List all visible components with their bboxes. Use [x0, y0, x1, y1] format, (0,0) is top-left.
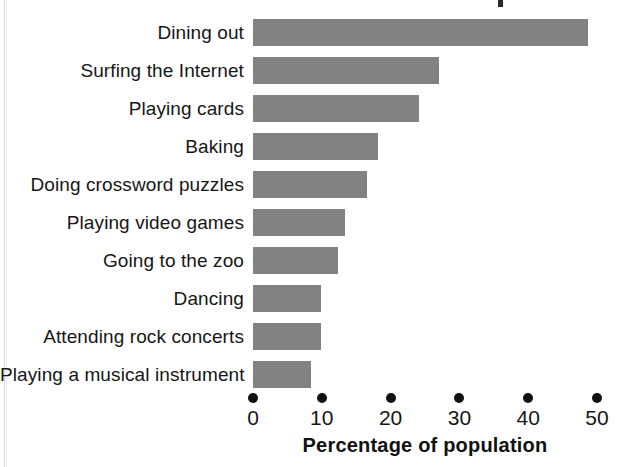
- x-tick-label: 30: [429, 406, 489, 430]
- category-label: Baking: [0, 133, 244, 160]
- x-tick-dot: [317, 393, 327, 403]
- bar-row: Playing video games: [0, 209, 627, 236]
- category-label: Attending rock concerts: [0, 323, 244, 350]
- category-label: Going to the zoo: [0, 247, 244, 274]
- bar-chart-figure: Dining outSurfing the InternetPlaying ca…: [0, 0, 627, 467]
- x-tick-dot: [454, 393, 464, 403]
- category-label: Surfing the Internet: [0, 57, 244, 84]
- bar: [253, 133, 378, 160]
- x-tick-dot: [248, 393, 258, 403]
- x-tick-label: 0: [223, 406, 283, 430]
- bar-row: Dancing: [0, 285, 627, 312]
- x-tick-label: 20: [361, 406, 421, 430]
- bar: [253, 19, 588, 46]
- category-label: Playing cards: [0, 95, 244, 122]
- bar-row: Attending rock concerts: [0, 323, 627, 350]
- bar: [253, 361, 311, 388]
- bar-row: Playing cards: [0, 95, 627, 122]
- x-axis: Percentage of population 01020304050: [0, 386, 627, 467]
- x-axis-title: Percentage of population: [253, 434, 597, 457]
- x-tick-label: 40: [498, 406, 558, 430]
- x-tick-dot: [523, 393, 533, 403]
- bar-row: Surfing the Internet: [0, 57, 627, 84]
- x-tick-label: 50: [567, 406, 627, 430]
- bar: [253, 57, 439, 84]
- bar-row: Doing crossword puzzles: [0, 171, 627, 198]
- bar-row: Going to the zoo: [0, 247, 627, 274]
- category-label: Playing a musical instrument: [0, 361, 244, 388]
- bar: [253, 285, 321, 312]
- bar-row: Playing a musical instrument: [0, 361, 627, 388]
- bar: [253, 209, 345, 236]
- bar: [253, 95, 419, 122]
- category-label: Playing video games: [0, 209, 244, 236]
- bar: [253, 247, 338, 274]
- category-label: Doing crossword puzzles: [0, 171, 244, 198]
- category-label: Dancing: [0, 285, 244, 312]
- bar: [253, 171, 367, 198]
- category-label: Dining out: [0, 19, 244, 46]
- bar-row: Baking: [0, 133, 627, 160]
- x-tick-label: 10: [292, 406, 352, 430]
- bar: [253, 323, 321, 350]
- bar-row: Dining out: [0, 19, 627, 46]
- x-tick-dot: [386, 393, 396, 403]
- x-tick-dot: [592, 393, 602, 403]
